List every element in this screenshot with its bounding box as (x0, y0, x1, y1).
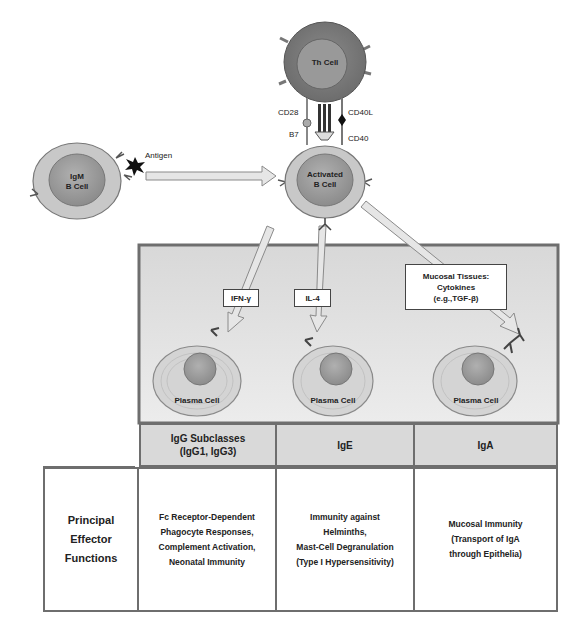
antigen-icon (125, 157, 145, 176)
arrow-igm-to-activated (146, 166, 276, 186)
cytokine-ifn-gamma: IFN-γ (223, 289, 259, 307)
plasma-cell-label-3: Plasma Cell (446, 396, 506, 406)
function-ige: Immunity against Helminths, Mast-Cell De… (275, 467, 415, 612)
row-title-principal-effector-functions: Principal Effector Functions (43, 467, 139, 612)
header-iga: IgA (413, 423, 558, 467)
plasma-cell-label-2: Plasma Cell (303, 396, 363, 406)
cytokine-il-4: IL-4 (294, 289, 331, 307)
header-igg-subclasses: IgG Subclasses (IgG1, IgG3) (139, 423, 277, 467)
cd28-label: CD28 (278, 108, 298, 117)
b7-label: B7 (289, 130, 299, 139)
synapse-molecules (303, 98, 346, 145)
function-iga: Mucosal Immunity (Transport of IgA throu… (413, 467, 558, 612)
function-igg: Fc Receptor-Dependent Phagocyte Response… (137, 467, 277, 612)
antigen-label: Antigen (145, 151, 172, 160)
activated-b-cell-label: Activated B Cell (290, 170, 360, 190)
cd40-label: CD40 (348, 134, 368, 143)
cytokine-mucosal-tgf-beta: Mucosal Tissues: Cytokines (e.g.,TGF-β) (405, 264, 507, 310)
plasma-cell-label-1: Plasma Cell (167, 396, 227, 406)
igm-b-cell-label: IgM B Cell (47, 172, 107, 192)
cd40l-label: CD40L (348, 108, 373, 117)
header-ige: IgE (275, 423, 415, 467)
th-cell-label: Th Cell (295, 58, 355, 68)
